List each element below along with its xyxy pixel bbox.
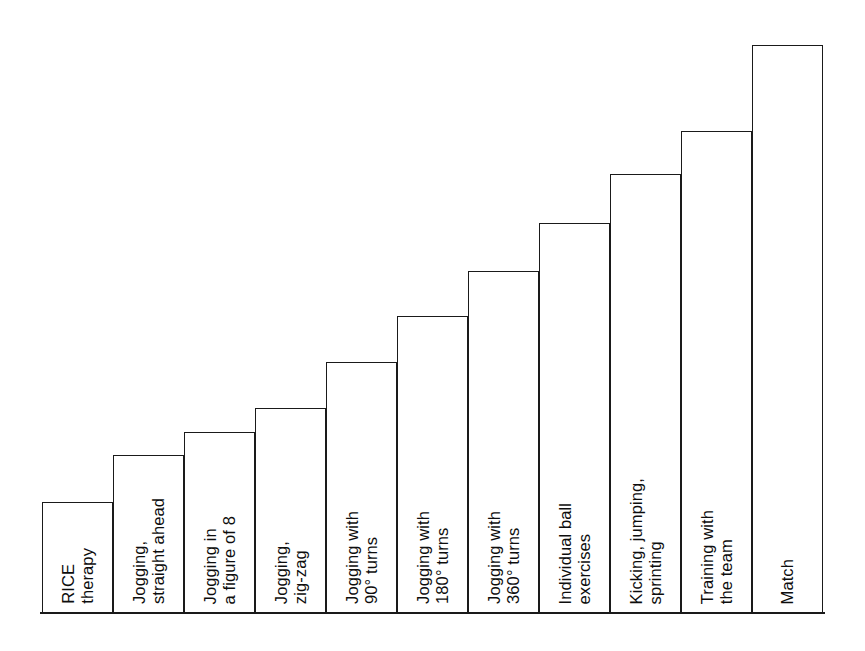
plot-area: RICE therapy Jogging, straight ahead Jog… [0,0,865,651]
bar-jogging-zig-zag: Jogging, zig-zag [255,408,326,613]
bar-jogging-straight-ahead: Jogging, straight ahead [113,455,184,613]
bar-label-match: Match [753,559,822,613]
bar-jogging-figure-of-8: Jogging in a figure of 8 [184,432,255,613]
bar-label-training-with-the-team: Training with the team [682,510,751,613]
bar-training-with-the-team: Training with the team [681,131,752,613]
bar-label-jogging-180-turns: Jogging with 180° turns [398,511,467,613]
bar-label-kicking-jumping-sprinting: Kicking, jumping, sprinting [611,478,680,613]
x-axis-baseline [40,612,825,614]
bar-label-jogging-360-turns: Jogging with 360° turns [469,511,538,613]
bar-match: Match [752,45,823,613]
bar-label-jogging-figure-of-8: Jogging in a figure of 8 [185,516,254,613]
bar-label-rice-therapy: RICE therapy [43,548,112,613]
bar-rice-therapy: RICE therapy [42,502,113,613]
bar-jogging-360-turns: Jogging with 360° turns [468,271,539,613]
bar-kicking-jumping-sprinting: Kicking, jumping, sprinting [610,174,681,613]
bar-jogging-180-turns: Jogging with 180° turns [397,316,468,613]
bar-jogging-90-turns: Jogging with 90° turns [326,362,397,613]
bar-label-jogging-straight-ahead: Jogging, straight ahead [114,498,183,613]
bar-chart: RICE therapy Jogging, straight ahead Jog… [0,0,865,651]
bar-label-jogging-90-turns: Jogging with 90° turns [327,511,396,613]
bar-label-individual-ball-exercises: Individual ball exercises [540,503,609,613]
bar-individual-ball-exercises: Individual ball exercises [539,223,610,613]
bar-label-jogging-zig-zag: Jogging, zig-zag [256,541,325,613]
